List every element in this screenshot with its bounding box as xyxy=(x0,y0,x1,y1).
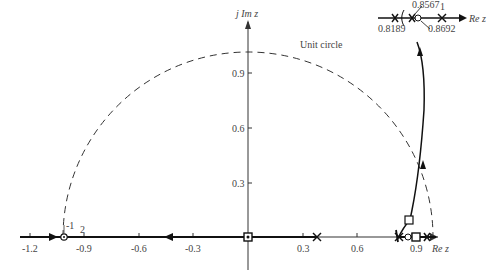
x-tick-label: -0.9 xyxy=(76,243,92,254)
x-tick-label: 0.3 xyxy=(297,243,310,254)
double-point-label: -1 xyxy=(66,220,74,231)
inset-axis-label: Re z xyxy=(468,13,486,24)
double-point-subscript: 2 xyxy=(80,224,85,235)
locus-branch-up xyxy=(397,42,424,240)
inset-zero xyxy=(415,15,421,21)
y-tick-label: 0.9 xyxy=(232,68,245,79)
x-tick-label: -0.3 xyxy=(185,243,201,254)
inset-label-0.8567: 0.8567 xyxy=(412,0,440,10)
x-tick-label: 0.9 xyxy=(410,243,423,254)
arrow-left-mid xyxy=(164,233,173,241)
unit-circle-label: Unit circle xyxy=(300,39,343,50)
compensator-marker xyxy=(412,233,420,241)
inset-label-0.8692: 0.8692 xyxy=(428,23,456,34)
x-tick-label: -1.2 xyxy=(22,243,38,254)
compensator-marker-locus xyxy=(405,216,413,224)
x-tick-label: -0.6 xyxy=(131,243,147,254)
y-axis-label: j Im z xyxy=(234,8,258,19)
inset-label-1: 1 xyxy=(440,1,445,12)
arrow-right-left xyxy=(49,233,58,241)
y-tick-label: 0.6 xyxy=(232,123,245,134)
x-tick-label: 0.6 xyxy=(351,243,364,254)
locus-arrow xyxy=(417,47,423,56)
x-axis-label: Re z xyxy=(431,243,449,254)
root-locus-diagram: -1.2 -0.9 -0.6 -0.3 0.3 0.6 0.9 Re z 0.3… xyxy=(0,0,493,278)
y-ticks xyxy=(248,73,252,183)
y-tick-label: 0.3 xyxy=(232,178,245,189)
zero-marker xyxy=(405,234,411,240)
imag-axis-arrow xyxy=(245,20,251,29)
locus-arrow xyxy=(420,160,426,169)
inset-label-0.8189: 0.8189 xyxy=(378,23,406,34)
